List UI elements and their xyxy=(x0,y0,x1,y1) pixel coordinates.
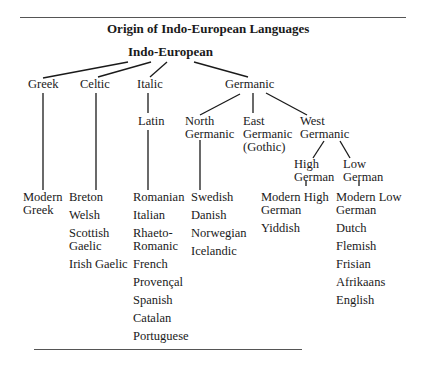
leaf-language: German xyxy=(261,204,301,217)
edge-root-italic xyxy=(150,62,167,77)
leaf-language: Yiddish xyxy=(261,222,300,235)
leaf-language: Welsh xyxy=(69,209,100,222)
node-latin: Latin xyxy=(138,115,164,128)
leaf-language: Flemish xyxy=(336,240,376,253)
leaf-language: German xyxy=(336,204,376,217)
leaf-language: Catalan xyxy=(133,312,171,325)
node-germanic: Germanic xyxy=(225,78,274,91)
leaf-language: Breton xyxy=(69,191,103,204)
node-label: Germanic xyxy=(300,128,349,141)
leaf-language: Frisian xyxy=(336,258,371,271)
leaf-language: Greek xyxy=(23,204,54,217)
edge-west-high xyxy=(313,141,324,158)
edge-west-low xyxy=(340,141,350,158)
leaf-language: Icelandic xyxy=(191,245,237,258)
leaf-language: Portuguese xyxy=(133,330,189,343)
edge-root-germanic xyxy=(194,62,248,77)
edge-root-greek xyxy=(43,62,128,78)
root-node: Indo-European xyxy=(128,45,213,58)
node-italic: Italic xyxy=(137,78,163,91)
diagram-title: Origin of Indo-European Languages xyxy=(107,22,309,35)
node-label: Germanic xyxy=(185,128,234,141)
leaf-language: Romanic xyxy=(133,240,178,253)
leaf-language: Romanian xyxy=(133,191,184,204)
leaf-language: Danish xyxy=(191,209,226,222)
leaf-language: Swedish xyxy=(191,191,233,204)
leaf-language: Dutch xyxy=(336,222,367,235)
leaf-language: English xyxy=(336,294,374,307)
edge-germanic-north xyxy=(200,94,240,115)
node-label: German xyxy=(294,171,334,184)
leaf-language: Spanish xyxy=(133,294,173,307)
leaf-language: French xyxy=(133,258,168,271)
node-label: (Gothic) xyxy=(243,141,285,154)
node-greek: Greek xyxy=(28,78,59,91)
leaf-language: Gaelic xyxy=(69,240,102,253)
edge-root-celtic xyxy=(98,62,151,77)
leaf-language: Irish Gaelic xyxy=(69,258,128,271)
node-label: German xyxy=(343,171,383,184)
leaf-language: Italian xyxy=(133,209,165,222)
leaf-language: Afrikaans xyxy=(336,276,385,289)
leaf-language: Provençal xyxy=(133,276,183,289)
leaf-language: Norwegian xyxy=(191,227,247,240)
edge-germanic-west xyxy=(266,93,307,115)
node-celtic: Celtic xyxy=(80,78,110,91)
